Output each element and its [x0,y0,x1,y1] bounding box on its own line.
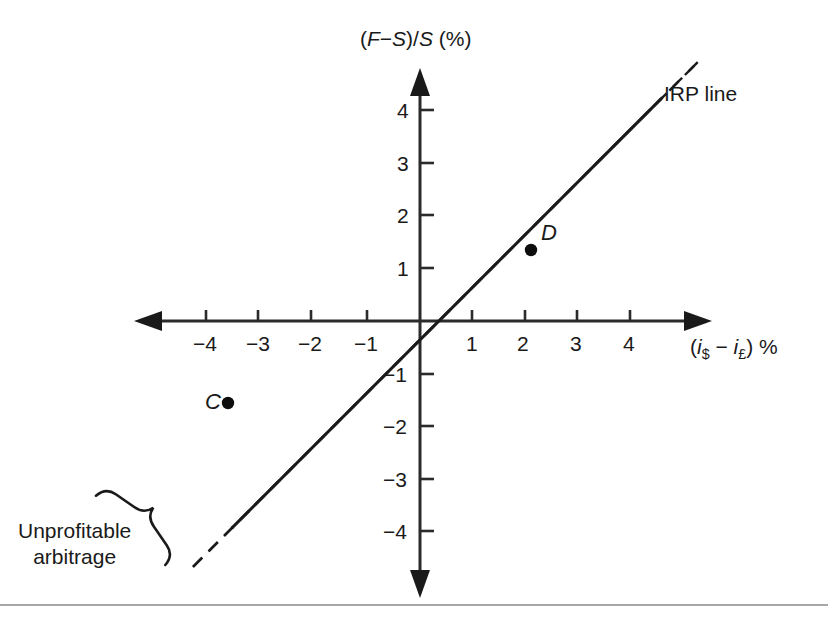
y-tick-label-4: 4 [397,100,409,121]
y-tick-label-1: 1 [397,258,409,279]
data-point-c-label: C [205,391,221,413]
x-axis-title: (i$ − i£) % [690,336,778,361]
data-point-d-label: D [541,222,557,244]
y-tick-label--2: −2 [383,416,407,437]
y-tick-label--4: −4 [383,521,407,542]
x-tick-label-2: 2 [517,333,529,354]
y-axis-title: (F−S)/S (%) [360,28,471,49]
x-tick-label--1: −1 [354,333,378,354]
x-axis-arrow-left [134,311,162,331]
y-axis-arrow-up [410,68,430,96]
y-tick-label--1: −1 [383,364,407,385]
x-tick-label-4: 4 [623,333,635,354]
irp-line-label: IRP line [664,83,737,104]
x-tick-label--2: −2 [298,333,322,354]
unprofitable-arbitrage-label: Unprofitable arbitrage [18,518,131,571]
y-tick-label-3: 3 [397,153,409,174]
data-point-c [222,397,234,409]
x-tick-label--3: −3 [246,333,270,354]
y-axis-arrow-down [410,570,430,598]
figure-container: (F−S)/S (%) (i$ − i£) % −4 −3 −2 −1 1 2 … [0,0,828,619]
x-tick-label-1: 1 [466,333,478,354]
y-tick-label--3: −3 [383,469,407,490]
y-axis-title-text: (F−S)/S (%) [360,27,471,50]
x-axis-arrow-right [684,311,712,331]
unprofitable-arbitrage-label-line2: arbitrage [18,544,131,570]
irp-line [232,98,662,528]
y-tick-label-2: 2 [397,205,409,226]
data-point-d [525,244,537,256]
y-axis [410,68,434,598]
x-axis-title-text: (i$ − i£) % [690,335,778,358]
x-tick-label--4: −4 [193,333,217,354]
x-axis [134,310,712,331]
unprofitable-arbitrage-label-line1: Unprofitable [18,518,131,544]
x-tick-label-3: 3 [570,333,582,354]
